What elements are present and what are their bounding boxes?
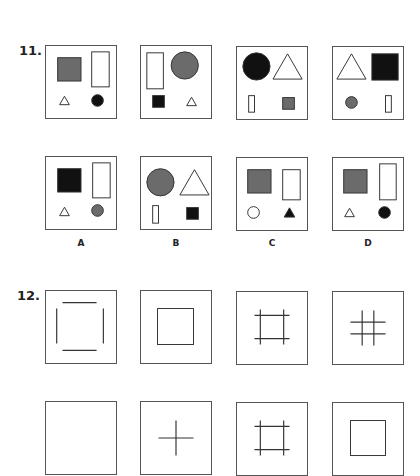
q11-option-b[interactable]: [140, 156, 212, 230]
q12-option-b[interactable]: [140, 401, 212, 475]
question-number-12: 12.: [17, 288, 40, 303]
square-shape: [248, 170, 271, 193]
q12-stem-figure-2: [140, 290, 212, 364]
circle-shape: [92, 95, 104, 107]
q12-stem-figure-4: [332, 291, 404, 365]
square-shape: [187, 208, 199, 220]
square-shape: [147, 53, 164, 89]
circle-shape: [248, 207, 260, 219]
circle-shape: [243, 53, 270, 80]
q11-stem-figure-3: [236, 46, 308, 120]
square-shape: [58, 169, 81, 192]
q11-option-c[interactable]: [236, 157, 308, 231]
triangle-shape: [180, 170, 209, 195]
circle-shape: [346, 97, 358, 109]
square-shape: [158, 309, 194, 345]
circle-shape: [171, 52, 198, 79]
q11-option-d[interactable]: [332, 157, 404, 231]
q12-option-a[interactable]: [45, 401, 117, 475]
q11-option-b-label: B: [140, 238, 212, 248]
q12-option-d[interactable]: [332, 402, 404, 476]
q12-option-c[interactable]: [236, 402, 308, 476]
square-shape: [283, 170, 301, 200]
square-shape: [93, 163, 110, 198]
square-shape: [92, 52, 110, 87]
square-shape: [372, 54, 398, 80]
q11-option-d-label: D: [332, 238, 404, 248]
square-shape: [153, 96, 165, 108]
square-shape: [351, 421, 386, 456]
square-shape: [283, 98, 295, 110]
circle-shape: [379, 207, 391, 219]
triangle-shape: [345, 208, 355, 216]
question-number-11: 11.: [19, 43, 42, 58]
q11-option-a-label: A: [45, 238, 117, 248]
square-shape: [249, 96, 255, 113]
square-shape: [58, 58, 81, 81]
triangle-shape: [337, 54, 366, 79]
triangle-shape: [60, 207, 70, 215]
circle-shape: [92, 205, 104, 217]
square-shape: [380, 164, 397, 200]
q12-stem-figure-1: [45, 290, 117, 364]
q11-option-a[interactable]: [45, 156, 117, 230]
square-shape: [344, 170, 367, 193]
triangle-shape: [284, 208, 295, 217]
triangle-shape: [187, 97, 197, 105]
q11-stem-figure-4: [332, 46, 404, 120]
q11-stem-figure-2: [140, 45, 212, 119]
q11-option-c-label: C: [236, 238, 308, 248]
square-shape: [153, 206, 159, 224]
triangle-shape: [273, 54, 302, 79]
square-shape: [386, 96, 392, 113]
q12-stem-figure-3: [236, 291, 308, 365]
circle-shape: [147, 169, 174, 196]
q11-stem-figure-1: [45, 45, 117, 119]
triangle-shape: [60, 96, 70, 104]
